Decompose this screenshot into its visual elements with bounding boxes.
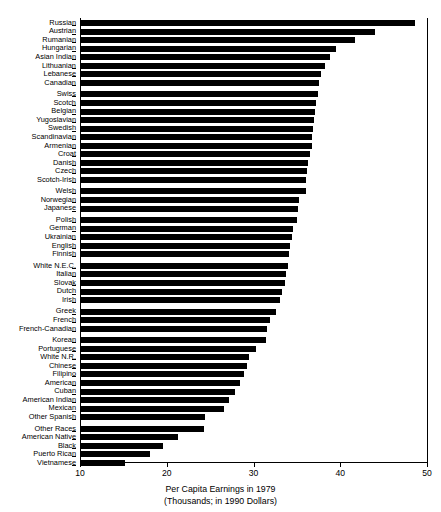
bar-japanese [80,206,298,212]
category-label: Irish [62,296,76,303]
category-label: Other Races [35,425,77,432]
x-axis-tick-label: 10 [65,469,95,478]
category-label: Japanese [44,204,76,211]
bar-fill [80,389,235,395]
bar-filipino [80,371,244,377]
x-axis-tick [340,462,341,467]
bar-cuban [80,389,235,395]
bar-scotch [80,100,316,106]
category-label: Cuban [54,387,76,394]
bar-fill [80,100,316,106]
category-label: Slovak [54,279,76,286]
bar-fill [80,80,319,86]
bar-fill [80,426,204,432]
category-label: Lithuanian [42,62,76,69]
category-label: Mexican [48,404,76,411]
category-label: Croat [58,150,76,157]
bar-ukrainian [80,234,292,240]
category-label: Dutch [57,287,76,294]
x-axis-tick [254,462,255,467]
category-label: Yugoslavian [36,116,76,123]
category-label: Canadian [44,79,76,86]
bar-fill [80,406,224,412]
bar-fill [80,63,325,69]
x-axis-tick-label: 20 [152,469,182,478]
bar-english [80,243,290,249]
bar-croat [80,151,310,157]
category-label: Chinese [49,362,76,369]
bar-white-n-e-c [80,263,288,269]
bar-fill [80,234,292,240]
caption-subtitle-line: (Thousands; in 1990 Dollars) [0,496,441,508]
category-label: Swedish [48,124,76,131]
category-label-column: RussianAustrianRumanianHungarianAsian In… [0,18,76,462]
category-label: Portuguese [38,345,76,352]
bar-rumanian [80,37,355,43]
bar-fill [80,177,306,183]
bar-fill [80,188,306,194]
bar-fill [80,37,355,43]
category-label: Austrian [49,27,76,34]
category-label: Danish [53,159,76,166]
bar-white-n-r [80,354,249,360]
bar-fill [80,317,270,323]
bar-fill [80,91,318,97]
bar-fill [80,263,288,269]
x-axis-tick-label: 50 [412,469,441,478]
category-label: Puerto Rican [33,450,76,457]
bar-polish [80,217,297,223]
bar-fill [80,168,307,174]
bar-french [80,317,270,323]
chart-caption: Per Capita Earnings in 1979 (Thousands; … [0,484,441,507]
category-label: Greek [56,307,76,314]
bar-yugoslavian [80,117,314,123]
bar-irish [80,297,280,303]
bar-fill [80,414,205,420]
bar-korean [80,337,266,343]
category-label: Rumanian [42,36,76,43]
x-axis-tick [427,462,428,467]
bar-lithuanian [80,63,325,69]
bar-fill [80,434,178,440]
x-axis-tick-label: 30 [239,469,269,478]
category-label: Asian Indian [35,53,76,60]
bar-chinese [80,363,247,369]
bar-fill [80,206,298,212]
category-label: Welsh [56,187,76,194]
bar-fill [80,271,286,277]
x-axis-tick [167,462,168,467]
bar-slovak [80,280,285,286]
bar-american [80,380,240,386]
bar-fill [80,243,290,249]
bar-french-canadian [80,326,267,332]
category-label: French [53,316,76,323]
category-label: Scotch-Irish [37,176,76,183]
bar-finnish [80,251,289,257]
bar-fill [80,20,415,26]
category-label: Belgian [51,107,76,114]
bar-lebanese [80,71,321,77]
bar-czech [80,168,307,174]
category-label: Swiss [57,90,76,97]
category-label: White N.R. [40,353,76,360]
bar-american-native [80,434,178,440]
bar-fill [80,460,125,466]
bar-chart: RussianAustrianRumanianHungarianAsian In… [0,0,441,512]
bar-asian-indian [80,54,330,60]
bar-greek [80,309,276,315]
bar-welsh [80,188,306,194]
bar-other-races [80,426,204,432]
category-label: Lebanese [44,70,76,77]
category-label: American [45,379,76,386]
category-label: Norwegian [41,196,76,203]
bar-fill [80,346,256,352]
bar-fill [80,326,267,332]
category-label: Filipino [53,370,76,377]
x-axis-tick-label: 40 [325,469,355,478]
bar-fill [80,197,299,203]
category-label: Italian [56,270,76,277]
category-label: French-Canadian [19,325,76,332]
bar-danish [80,160,308,166]
bar-fill [80,289,282,295]
x-axis-tick [80,462,81,467]
